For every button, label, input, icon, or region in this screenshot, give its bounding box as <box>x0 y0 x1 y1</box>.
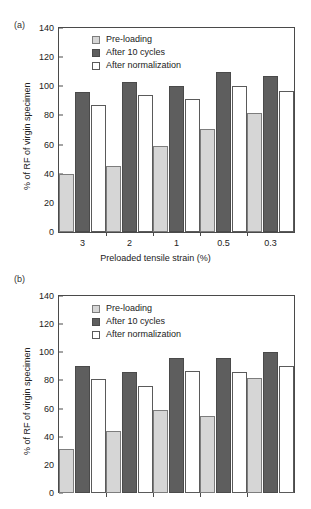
bar <box>279 91 294 232</box>
figure-bar-charts: (a) % of RF of virgin specimen 020406080… <box>0 0 311 509</box>
y-tick-label: 140 <box>39 291 54 301</box>
panel-b-tag: (b) <box>14 274 25 284</box>
y-tick-label: 20 <box>44 198 54 208</box>
y-tick-label: 140 <box>39 23 54 33</box>
x-tick-mark <box>153 493 154 497</box>
bar <box>122 372 137 493</box>
bar <box>232 86 247 232</box>
bar-group-0.3 <box>247 296 294 493</box>
legend-label: After 10 cycles <box>106 48 165 57</box>
y-tick-label: 60 <box>44 140 54 150</box>
legend-swatch-icon <box>92 49 100 57</box>
legend-item-b-0: Pre-loading <box>92 302 181 315</box>
legend-item-b-1: After 10 cycles <box>92 315 181 328</box>
legend-swatch-icon <box>92 331 100 339</box>
bar <box>75 366 90 493</box>
bar <box>200 129 215 232</box>
bar <box>106 431 121 493</box>
y-tick-label: 100 <box>39 347 54 357</box>
legend-item-a-2: After normalization <box>92 59 181 72</box>
y-tick-label: 60 <box>44 404 54 414</box>
legend-label: After normalization <box>106 61 181 70</box>
legend-item-b-2: After normalization <box>92 328 181 341</box>
bar <box>153 146 168 232</box>
bar <box>232 372 247 493</box>
bar <box>263 76 278 232</box>
bar <box>138 386 153 493</box>
y-tick-label: 0 <box>49 488 54 498</box>
y-tick-label: 120 <box>39 319 54 329</box>
y-tick-label: 120 <box>39 52 54 62</box>
legend-label: Pre-loading <box>106 304 152 313</box>
legend-swatch-icon <box>92 305 100 313</box>
panel-a-tag: (a) <box>14 20 25 30</box>
bar <box>122 82 137 232</box>
bar <box>59 174 74 232</box>
panel-b-legend: Pre-loadingAfter 10 cyclesAfter normaliz… <box>92 302 181 341</box>
x-tick-label: 1 <box>174 238 179 248</box>
bar <box>169 86 184 232</box>
legend-label: Pre-loading <box>106 35 152 44</box>
bar <box>153 410 168 493</box>
y-tick-label: 80 <box>44 110 54 120</box>
x-tick-mark <box>153 232 154 236</box>
bar <box>247 113 262 232</box>
bar-group-0.5 <box>200 28 247 232</box>
bar <box>91 105 106 232</box>
legend-swatch-icon <box>92 62 100 70</box>
x-tick-label: 0.3 <box>264 238 277 248</box>
bar-group-0.5 <box>200 296 247 493</box>
y-tick-label: 100 <box>39 81 54 91</box>
y-tick-label: 0 <box>49 227 54 237</box>
bar <box>75 92 90 232</box>
y-tick-label: 40 <box>44 432 54 442</box>
x-tick-mark <box>247 232 248 236</box>
bar <box>216 72 231 232</box>
bar <box>106 166 121 232</box>
panel-b-y-axis-label: % of RF of virgin specimen <box>22 347 32 455</box>
x-tick-mark <box>200 232 201 236</box>
x-tick-mark <box>106 232 107 236</box>
bar <box>216 358 231 493</box>
panel-a-legend: Pre-loadingAfter 10 cyclesAfter normaliz… <box>92 33 181 72</box>
bar <box>91 379 106 493</box>
panel-a: (a) % of RF of virgin specimen 020406080… <box>0 0 311 266</box>
bar <box>138 95 153 232</box>
legend-item-a-1: After 10 cycles <box>92 46 181 59</box>
x-tick-label: 3 <box>80 238 85 248</box>
legend-swatch-icon <box>92 318 100 326</box>
panel-a-x-axis-label: Preloaded tensile strain (%) <box>0 253 311 263</box>
x-tick-mark <box>247 493 248 497</box>
x-tick-mark <box>200 493 201 497</box>
bar <box>59 449 74 493</box>
legend-item-a-0: Pre-loading <box>92 33 181 46</box>
y-tick-label: 40 <box>44 169 54 179</box>
y-tick-label: 80 <box>44 375 54 385</box>
bar <box>279 366 294 493</box>
bar <box>169 358 184 493</box>
y-tick-label: 20 <box>44 460 54 470</box>
legend-label: After 10 cycles <box>106 317 165 326</box>
bar <box>185 371 200 493</box>
x-tick-mark <box>106 493 107 497</box>
bar <box>200 416 215 493</box>
bar <box>185 99 200 232</box>
x-tick-label: 2 <box>127 238 132 248</box>
x-tick-label: 0.5 <box>217 238 230 248</box>
bar <box>247 378 262 493</box>
legend-swatch-icon <box>92 36 100 44</box>
legend-label: After normalization <box>106 330 181 339</box>
bar-group-0.3 <box>247 28 294 232</box>
bar <box>263 352 278 493</box>
panel-a-y-axis-label: % of RF of virgin specimen <box>22 82 32 190</box>
